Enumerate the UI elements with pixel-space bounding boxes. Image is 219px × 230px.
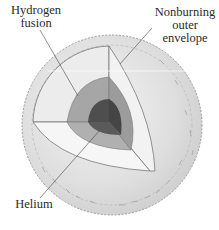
star-structure-diagram: Hydrogen fusion Nonburning outer envelop… (0, 0, 219, 230)
label-hydrogen-fusion: Hydrogen fusion (6, 4, 66, 30)
label-line: envelope (150, 32, 219, 45)
label-helium: Helium (14, 198, 54, 211)
label-line: Helium (14, 198, 54, 211)
label-line: fusion (6, 17, 66, 30)
label-nonburning-outer-envelope: Nonburning outer envelope (150, 6, 219, 45)
